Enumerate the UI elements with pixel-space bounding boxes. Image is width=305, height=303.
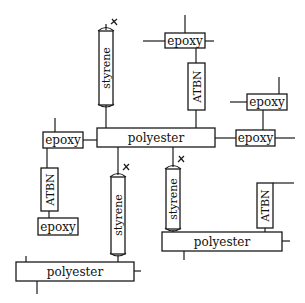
- atbn-right: ATBN: [257, 183, 273, 228]
- svg-text:polyester: polyester: [128, 131, 185, 145]
- epoxy-right-lower: epoxy: [236, 130, 275, 146]
- connection-lines: [26, 15, 295, 294]
- svg-text:polyester: polyester: [194, 235, 251, 249]
- crosslink-x-icon: [178, 156, 184, 162]
- svg-text:styrene: styrene: [167, 178, 180, 220]
- polymer-network-diagram: styrene styrene styrene ATBN ATBN ATBN e…: [0, 0, 305, 303]
- epoxy-left: epoxy: [43, 132, 83, 148]
- svg-text:styrene: styrene: [112, 194, 125, 236]
- crosslink-x-icon: [123, 164, 129, 170]
- svg-text:styrene: styrene: [100, 47, 113, 89]
- svg-text:epoxy: epoxy: [167, 34, 203, 48]
- svg-text:epoxy: epoxy: [45, 133, 81, 147]
- epoxy-right-upper: epoxy: [247, 94, 287, 110]
- styrene-top: styrene: [99, 31, 113, 105]
- polyester-right: polyester: [162, 232, 282, 251]
- svg-text:epoxy: epoxy: [238, 131, 274, 145]
- svg-text:epoxy: epoxy: [249, 95, 285, 109]
- polyester-main: polyester: [97, 128, 215, 147]
- svg-text:epoxy: epoxy: [40, 220, 76, 234]
- epoxy-top: epoxy: [165, 33, 205, 48]
- polyester-bottom: polyester: [16, 262, 134, 281]
- atbn-top: ATBN: [188, 63, 205, 110]
- crosslink-x-icon: [111, 19, 117, 25]
- svg-text:ATBN: ATBN: [191, 70, 204, 104]
- styrene-right: styrene: [166, 169, 180, 229]
- svg-text:ATBN: ATBN: [44, 173, 57, 207]
- svg-text:polyester: polyester: [47, 265, 104, 279]
- epoxy-left-lower: epoxy: [38, 218, 78, 235]
- atbn-left: ATBN: [41, 168, 58, 211]
- svg-text:ATBN: ATBN: [259, 189, 272, 223]
- styrene-middle: styrene: [111, 177, 125, 254]
